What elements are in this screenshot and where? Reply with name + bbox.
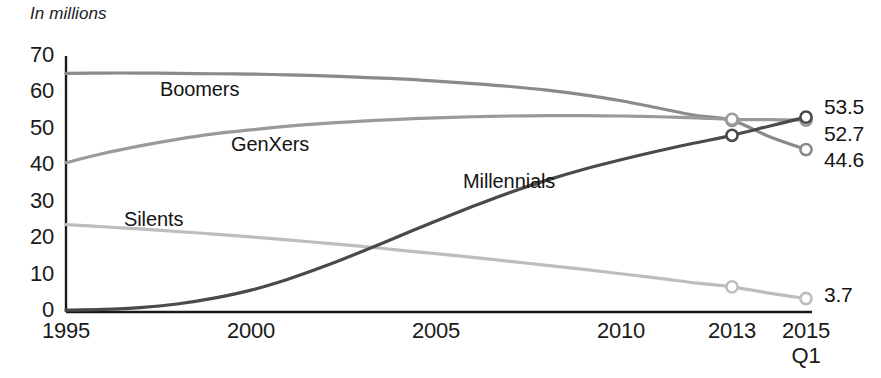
series-silents xyxy=(66,225,812,305)
x-tick-label: 2005 xyxy=(391,318,481,344)
data-point-marker xyxy=(726,114,737,125)
x-tick-year: 1995 xyxy=(42,318,90,343)
x-tick-label: 2000 xyxy=(206,318,296,344)
series-label-millennials: Millennials xyxy=(463,170,555,193)
data-point-marker xyxy=(726,281,737,292)
x-tick-year: 2013 xyxy=(708,318,756,343)
end-value-label: 44.6 xyxy=(824,148,864,172)
end-value-label: 52.7 xyxy=(824,122,864,146)
y-tick-label: 20 xyxy=(8,224,54,250)
series-line-silents xyxy=(66,225,806,299)
data-point-marker xyxy=(800,144,811,155)
series-line-genxers xyxy=(66,116,806,163)
x-tick-label: 1995 xyxy=(21,318,111,344)
data-point-marker xyxy=(800,112,811,123)
x-tick-year: 2005 xyxy=(412,318,460,343)
data-point-marker xyxy=(800,293,811,304)
x-tick-year: 2015 xyxy=(782,318,830,343)
x-tick-year: 2000 xyxy=(227,318,275,343)
end-value-label: 53.5 xyxy=(824,95,864,119)
series-label-silents: Silents xyxy=(124,208,183,231)
y-tick-label: 10 xyxy=(8,261,54,287)
y-tick-label: 60 xyxy=(8,78,54,104)
end-value-label: 3.7 xyxy=(824,283,853,307)
x-tick-sublabel: Q1 xyxy=(761,344,851,369)
y-tick-label: 40 xyxy=(8,151,54,177)
population-generations-line-chart: In millions 706050403020100 199520002005… xyxy=(0,0,881,378)
x-tick-year: 2010 xyxy=(597,318,645,343)
series-genxers xyxy=(66,114,812,163)
series-label-genxers: GenXers xyxy=(231,133,309,156)
y-tick-label: 30 xyxy=(8,188,54,214)
x-tick-label: 2015Q1 xyxy=(761,318,851,369)
x-tick-label: 2010 xyxy=(576,318,666,344)
y-tick-label: 50 xyxy=(8,115,54,141)
series-label-boomers: Boomers xyxy=(160,78,239,101)
y-tick-label: 70 xyxy=(8,42,54,68)
data-point-marker xyxy=(726,130,737,141)
